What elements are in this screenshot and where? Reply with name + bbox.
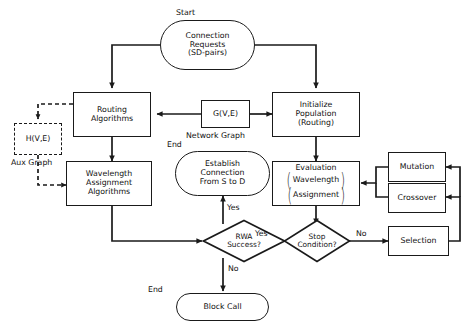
node-initialize-population[interactable]: Initialize Population (Routing) — [272, 92, 360, 137]
evaluation-line3: Assignment — [293, 191, 339, 200]
edge-label-rwa-yes: Yes — [227, 203, 240, 212]
edge-crossover-to-eval — [376, 183, 388, 197]
mutation-label: Mutation — [400, 163, 434, 172]
evaluation-line1: Evaluation — [295, 164, 336, 173]
routing-algorithms-line2: Algorithms — [91, 115, 133, 124]
initialize-population-line3: (Routing) — [298, 119, 334, 128]
aux-graph-label: H(V,E) — [26, 135, 51, 144]
right-paren-icon-2: ) — [340, 188, 345, 203]
edge-routing-to-auxgraph — [38, 104, 73, 119]
node-routing-algorithms[interactable]: Routing Algorithms — [73, 92, 151, 137]
node-wavelength-assignment[interactable]: Wavelength Assignment Algorithms — [66, 161, 152, 206]
node-block-call[interactable]: Block Call — [176, 293, 269, 321]
node-network-graph[interactable]: G(V,E) — [201, 100, 250, 128]
label-end-block: End — [148, 285, 163, 294]
node-evaluation[interactable]: Evaluation ( Wavelength ) ( Assignment ) — [272, 161, 360, 206]
edge-wa-to-rwa — [112, 206, 202, 241]
edge-mutation-to-eval — [361, 167, 388, 183]
evaluation-line3-row: ( Assignment ) — [286, 188, 347, 203]
rwa-success-line2: Success? — [227, 241, 261, 249]
rwa-success-label: RWA Success? — [227, 233, 261, 250]
label-aux-graph: Aux Graph — [11, 158, 52, 167]
label-network-graph: Network Graph — [186, 131, 245, 140]
node-mutation[interactable]: Mutation — [388, 152, 446, 182]
edge-start-to-routing — [112, 45, 160, 88]
node-aux-graph[interactable]: H(V,E) — [14, 123, 62, 155]
node-establish-connection[interactable]: Establish Connection From S to D — [175, 151, 270, 196]
edge-to-mutation — [446, 167, 460, 197]
wavelength-assignment-line3: Algorithms — [88, 188, 130, 197]
node-rwa-success[interactable]: RWA Success? — [202, 219, 286, 263]
stop-condition-line2: Condition? — [297, 241, 336, 249]
selection-label: Selection — [401, 237, 437, 246]
evaluation-line2: Wavelength — [293, 176, 339, 185]
label-start: Start — [176, 8, 195, 17]
node-crossover[interactable]: Crossover — [388, 183, 446, 213]
node-connection-requests[interactable]: Connection Requests (SD-pairs) — [160, 20, 255, 70]
crossover-label: Crossover — [398, 194, 437, 203]
block-call-label: Block Call — [203, 303, 241, 312]
network-graph-label: G(V,E) — [213, 110, 238, 119]
edge-label-rwa-no: No — [228, 264, 239, 273]
stop-condition-label: Stop Condition? — [297, 233, 336, 250]
left-paren-icon-2: ( — [287, 188, 292, 203]
node-selection[interactable]: Selection — [388, 226, 449, 256]
flowchart-diagram: Connection Requests (SD-pairs) Start Rou… — [0, 0, 469, 334]
evaluation-line2-row: ( Wavelength ) — [285, 173, 346, 188]
edge-start-to-initpop — [255, 45, 316, 88]
node-stop-condition[interactable]: Stop Condition? — [283, 219, 351, 263]
connection-requests-line3: (SD-pairs) — [188, 49, 227, 58]
label-end-establish: End — [167, 140, 182, 149]
edge-label-stop-no: No — [356, 229, 367, 238]
establish-connection-line3: From S to D — [200, 178, 246, 187]
